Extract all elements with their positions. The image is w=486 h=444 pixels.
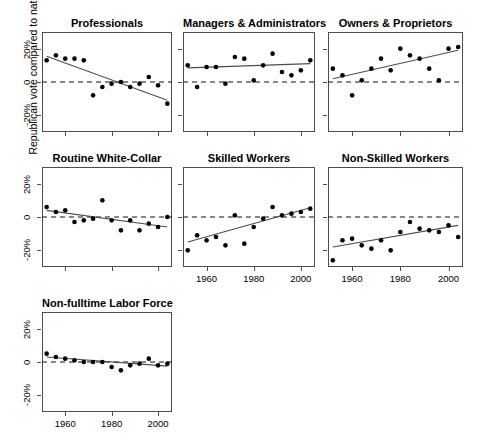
y-tick-mark [178,82,182,83]
data-point [63,356,68,361]
x-tick-mark [112,132,113,136]
data-point [408,53,413,58]
data-point [72,56,77,61]
data-point [128,363,133,368]
x-tick-label: 1980 [380,273,420,284]
data-point [72,358,77,363]
panel-title: Managers & Administrators [183,17,315,29]
data-point [223,81,228,86]
data-point [91,216,96,221]
panel-professionals: Professionals20%0-20% [42,32,172,132]
data-point [91,360,96,365]
data-point [299,210,304,215]
data-point [100,85,105,90]
x-tick-label: 2000 [429,273,469,284]
data-point [270,51,275,56]
data-point [81,360,86,365]
figure-canvas: Republican vote compared to national ave… [0,0,486,444]
data-point [63,56,68,61]
data-point [128,85,133,90]
data-point [54,355,59,360]
data-point [63,208,68,213]
x-tick-mark [352,132,353,136]
y-tick-mark [178,184,182,185]
y-tick-mark [323,82,327,83]
data-point [54,53,59,58]
x-tick-mark [254,267,255,271]
x-tick-mark [254,132,255,136]
data-point [289,211,294,216]
y-tick-label: -20% [21,379,32,411]
data-point [340,238,345,243]
data-point [456,45,461,50]
data-point [369,66,374,71]
data-point [369,246,374,251]
x-tick-label: 1960 [332,273,372,284]
data-point [119,368,124,373]
regression-line [333,225,458,247]
data-point [165,215,170,220]
data-point [137,228,142,233]
panel-plot-area [42,312,172,412]
data-point [359,243,364,248]
data-point [417,56,422,61]
y-tick-mark [323,184,327,185]
x-tick-mark [301,267,302,271]
x-tick-label: 1960 [45,418,85,429]
data-point [81,58,86,63]
x-tick-label: 2000 [281,273,321,284]
data-point [44,351,49,356]
data-point [437,230,442,235]
x-tick-mark [112,267,113,271]
x-tick-label: 1980 [234,273,274,284]
data-point [81,218,86,223]
panel-title: Routine White-Collar [42,152,172,164]
data-point [223,243,228,248]
y-tick-mark [178,250,182,251]
data-point [446,223,451,228]
y-tick-mark [37,115,41,116]
panel-plot-area [328,32,463,132]
panel-plot-area [183,32,315,132]
data-point [446,46,451,51]
data-point [165,361,170,366]
y-tick-mark [323,115,327,116]
y-tick-mark [178,115,182,116]
data-point [427,228,432,233]
data-point [427,66,432,71]
data-point [331,258,336,263]
data-point [350,93,355,98]
y-tick-mark [37,82,41,83]
x-tick-mark [352,267,353,271]
data-point [72,220,77,225]
data-point [146,221,151,226]
x-tick-mark [158,132,159,136]
panel-owners-proprietors: Owners & Proprietors [328,32,463,132]
data-point [195,85,200,90]
data-point [195,233,200,238]
data-point [359,78,364,83]
data-point [109,218,114,223]
data-point [100,360,105,365]
panel-title: Professionals [42,17,172,29]
y-tick-mark [323,49,327,50]
x-tick-mark [400,267,401,271]
data-point [408,220,413,225]
data-point [251,225,256,230]
data-point [331,66,336,71]
panel-title: Skilled Workers [183,152,315,164]
data-point [233,55,238,60]
regression-line [333,50,458,78]
x-tick-label: 1960 [187,273,227,284]
y-tick-mark [37,49,41,50]
y-tick-label: 20% [21,33,32,65]
data-point [119,80,124,85]
x-tick-mark [158,412,159,416]
panel-routine-white-collar: Routine White-Collar20%0-20% [42,167,172,267]
data-point [137,361,142,366]
data-point [280,213,285,218]
data-point [340,73,345,78]
data-point [44,58,49,63]
data-point [261,216,266,221]
data-point [185,248,190,253]
